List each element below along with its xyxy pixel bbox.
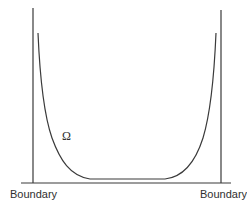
well-curve [38,33,216,179]
potential-well-diagram: Ω Boundary Boundary [0,0,247,220]
region-omega-label: Ω [62,130,71,142]
diagram-graphic [0,0,247,220]
right-boundary-label: Boundary [200,188,247,200]
left-boundary-label: Boundary [10,188,57,200]
